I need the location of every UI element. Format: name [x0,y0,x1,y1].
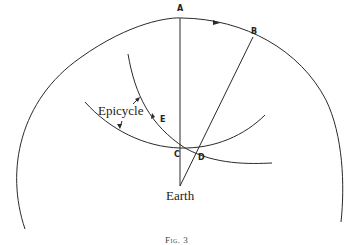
line-earth-to-b [180,37,253,186]
figure-caption: Fig. 3 [165,236,188,245]
label-d: D [198,154,205,162]
diagram-canvas [0,0,361,245]
epicycle-diagram: A B Epicycle E C D Earth Fig. 3 [0,0,361,245]
label-a: A [177,5,183,13]
label-epicycle: Epicycle [98,104,143,117]
label-earth: Earth [166,189,194,202]
label-c: C [174,151,180,159]
label-e: E [160,116,165,124]
label-b: B [251,28,257,36]
epicycle-arrow-lower-icon [117,124,122,129]
